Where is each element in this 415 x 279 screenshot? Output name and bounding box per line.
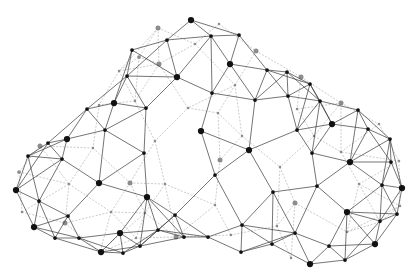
mesh-edge [111,212,145,213]
mesh-edge [159,64,188,108]
mesh-edge [218,85,235,113]
mesh-node [60,157,64,161]
mesh-edge [297,130,312,153]
mesh-edge [144,153,147,197]
mesh-edge [241,244,272,252]
mesh-node [239,250,243,254]
mesh-edge [235,85,242,136]
mesh-edge [231,226,277,235]
mesh-node [64,136,70,142]
mesh-edge [297,109,314,136]
mesh-node [270,242,274,246]
mesh-edge [329,212,347,246]
mesh-edge [295,186,317,233]
mesh-node [144,194,150,200]
mesh-node [31,224,37,230]
mesh-node [388,137,392,141]
mesh-edge [158,230,184,237]
mesh-node [296,108,299,111]
mesh-edge [230,64,255,100]
mesh-node [340,151,343,154]
mesh-edge [28,156,62,159]
mesh-node [77,236,81,240]
mesh-edge [291,203,295,258]
mesh-edge [358,110,368,129]
mesh-edge [114,50,132,103]
mesh-node [378,123,381,126]
mesh-edge [16,143,48,190]
mesh-node [26,154,30,158]
mesh-edge [34,216,68,227]
mesh-edge [155,108,188,141]
mesh-edge [99,183,147,197]
mesh-edge [68,216,79,238]
mesh-edge [297,124,332,130]
mesh-edge [34,227,79,238]
mesh-edge [167,36,211,40]
mesh-edge [165,184,215,205]
mesh-edge [175,215,208,237]
mesh-edge [191,20,239,35]
front-mesh-edges [16,20,402,264]
mesh-edge [219,24,256,51]
mesh-node [53,236,57,240]
mesh-node [395,212,399,216]
mesh-node [173,213,177,217]
mesh-edge [287,72,288,96]
mesh-edge [345,244,375,260]
mesh-edge [16,190,39,201]
mesh-edge [144,108,146,153]
mesh-node [213,173,217,177]
mesh-edge [341,152,359,184]
mesh-edge [208,225,242,237]
mesh-node [240,223,244,227]
mesh-edge [177,77,212,93]
mesh-edge [295,203,347,232]
mesh-edge [230,64,267,70]
mesh-node [17,170,21,174]
mesh-edge [347,185,382,212]
mesh-edge [158,28,159,64]
mesh-edge [382,162,391,185]
mesh-node [85,107,89,111]
mesh-edge [132,50,177,77]
mesh-edge [255,70,267,100]
mesh-edge [22,184,69,212]
mesh-node [308,82,312,86]
mesh-edge [241,225,242,252]
mesh-node [310,151,314,155]
mesh-node [209,34,213,38]
mesh-edge [218,113,220,160]
mesh-node [125,74,129,78]
mesh-node [182,235,186,239]
mesh-edge [130,183,165,184]
mesh-edge [79,233,120,238]
mesh-node [329,121,335,127]
mesh-node [164,183,167,186]
mesh-edge [310,260,345,264]
mesh-edge [230,35,239,64]
mesh-edge [256,51,301,77]
mesh-edge [288,84,310,96]
mesh-edge [239,35,267,70]
mesh-edge [93,148,130,183]
mesh-edge [242,192,273,225]
mesh-node [157,62,162,67]
mesh-edge [16,190,34,227]
mesh-edge [101,233,120,252]
mesh-edge [188,85,235,108]
mesh-edge [249,130,297,150]
mesh-edge [68,183,99,216]
mesh-node [210,91,214,95]
mesh-edge [277,203,295,226]
mesh-node [38,144,43,149]
mesh-node [98,249,104,255]
mesh-node [37,199,41,203]
mesh-node [198,128,204,134]
mesh-edge [191,20,211,36]
mesh-node [295,128,299,132]
mesh-edge [317,186,347,212]
mesh-edge [55,238,101,252]
mesh-node [327,244,331,248]
mesh-edge [297,77,301,109]
